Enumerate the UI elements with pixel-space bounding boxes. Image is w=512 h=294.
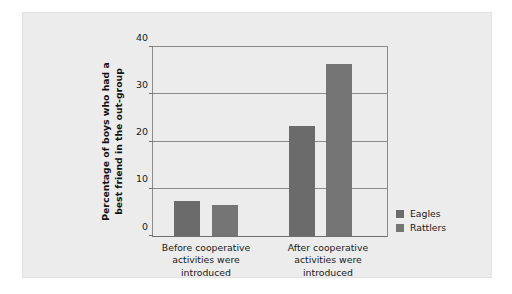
legend-swatch-eagles-icon [396, 210, 404, 218]
figure-panel: Percentage of boys who had a best friend… [22, 12, 492, 278]
y-axis-title-line-1: Percentage of boys who had a [100, 62, 113, 220]
y-axis-title: Percentage of boys who had a best friend… [97, 46, 129, 237]
y-tick-mark-40 [149, 46, 153, 47]
x-axis-label-after: After cooperative activities were introd… [269, 242, 387, 279]
y-tick-mark-20 [149, 141, 153, 142]
x-axis-label-after-line-3: introduced [269, 267, 387, 279]
bar-after-eagles [289, 126, 315, 236]
y-tick-label-10: 10 [136, 175, 148, 185]
y-tick-label-30: 30 [136, 80, 148, 90]
bar-after-rattlers [326, 64, 352, 236]
x-axis-label-before: Before cooperative activities were intro… [147, 242, 265, 279]
legend-label-rattlers: Rattlers [410, 223, 446, 232]
x-axis-label-before-line-1: Before cooperative [147, 242, 265, 254]
y-tick-label-40: 40 [136, 33, 148, 43]
bar-before-rattlers [212, 205, 238, 236]
chart-legend: Eagles Rattlers [396, 207, 446, 235]
y-tick-mark-30 [149, 93, 153, 94]
legend-item-rattlers: Rattlers [396, 221, 446, 235]
x-axis-label-after-line-2: activities were [269, 254, 387, 266]
x-axis-label-before-line-2: activities were [147, 254, 265, 266]
chart-figure: Percentage of boys who had a best friend… [0, 0, 512, 294]
bar-before-eagles [174, 201, 200, 236]
y-axis-title-line-2: best friend in the out-group [113, 62, 126, 220]
legend-item-eagles: Eagles [396, 207, 446, 221]
plot-area: 0 10 20 30 40 [152, 46, 388, 237]
y-tick-label-0: 0 [142, 222, 148, 232]
y-tick-mark-0 [149, 235, 153, 236]
legend-swatch-rattlers-icon [396, 224, 404, 232]
legend-label-eagles: Eagles [410, 209, 441, 218]
y-tick-label-20: 20 [136, 127, 148, 137]
y-tick-mark-10 [149, 188, 153, 189]
x-axis-label-before-line-3: introduced [147, 267, 265, 279]
x-axis-label-after-line-1: After cooperative [269, 242, 387, 254]
